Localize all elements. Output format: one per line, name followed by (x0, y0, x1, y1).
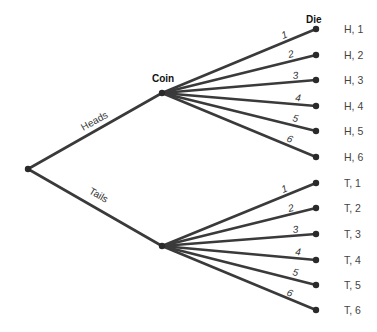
leaf-node-t6 (313, 307, 319, 313)
outcome-t3: T, 3 (344, 228, 361, 240)
tails-face-label-4: 4 (295, 246, 302, 257)
leaf-node-h3 (313, 77, 319, 83)
outcome-t6: T, 6 (344, 304, 361, 316)
leaf-node-h4 (313, 103, 319, 109)
outcome-h3: H, 3 (344, 74, 363, 86)
leaf-node-t2 (313, 205, 319, 211)
leaf-node-h1 (313, 26, 319, 32)
heads-face-label-2: 2 (286, 48, 295, 60)
heads-edge (28, 93, 162, 169)
tails-face-label-3: 3 (292, 224, 299, 235)
outcome-h5: H, 5 (344, 125, 363, 137)
leaf-node-t4 (313, 257, 319, 263)
heads-face-label-6: 6 (285, 133, 295, 145)
outcome-t4: T, 4 (344, 254, 361, 266)
outcome-h4: H, 4 (344, 100, 363, 112)
outcome-t2: T, 2 (344, 202, 361, 214)
tails-label: Tails (87, 185, 110, 205)
tails-node (159, 243, 165, 249)
heads-node (159, 90, 165, 96)
die-header: Die (306, 14, 322, 25)
tails-face-label-5: 5 (292, 266, 300, 278)
leaf-node-t3 (313, 231, 319, 237)
heads-face-label-4: 4 (295, 92, 302, 103)
outcome-t5: T, 5 (344, 279, 361, 291)
heads-face-label-5: 5 (292, 112, 300, 124)
leaf-node-t1 (313, 180, 319, 186)
leaf-node-h2 (313, 52, 319, 58)
tails-edge (28, 169, 162, 246)
leaf-node-h5 (313, 128, 319, 134)
root-node (25, 166, 31, 172)
outcome-h2: H, 2 (344, 49, 363, 61)
outcome-t1: T, 1 (344, 177, 361, 189)
leaf-node-h6 (313, 154, 319, 160)
heads-label: Heads (79, 109, 110, 133)
heads-face-label-1: 1 (280, 29, 289, 41)
tree-diagram: Coin Die Heads Tails 1 2 3 4 5 6 1 2 3 4… (0, 0, 377, 332)
heads-face-label-3: 3 (292, 70, 299, 81)
leaf-node-t5 (313, 282, 319, 288)
tails-face-label-6: 6 (285, 287, 295, 299)
tails-face-label-1: 1 (280, 183, 289, 195)
tails-face-label-2: 2 (286, 202, 295, 214)
outcome-h6: H, 6 (344, 151, 363, 163)
outcome-h1: H, 1 (344, 23, 363, 35)
coin-header: Coin (152, 73, 174, 84)
